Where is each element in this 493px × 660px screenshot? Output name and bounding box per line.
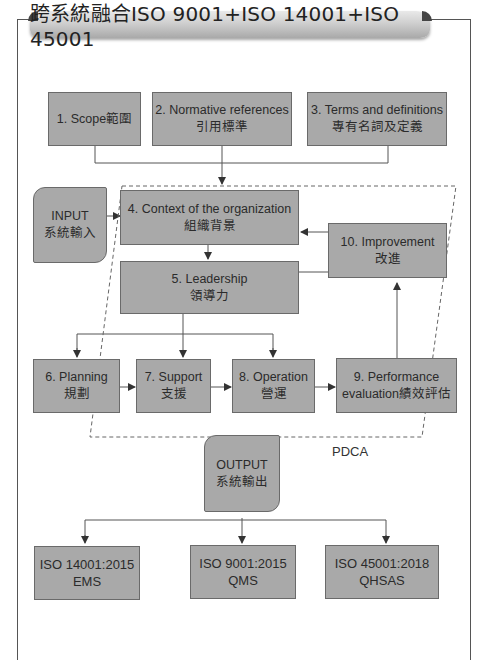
performance-label-zh: evaluation績效評估 [342,386,451,403]
box-iso-9001: ISO 9001:2015 QMS [190,545,296,599]
iso-9001-type: QMS [228,572,258,589]
box-output: OUTPUT 系統輸出 [204,435,280,512]
title-banner: 跨系統融合ISO 9001+ISO 14001+ISO 45001 [30,11,430,38]
box-improvement: 10. Improvement 改進 [328,223,447,278]
terms-definitions-label: 3. Terms and definitions [311,102,443,119]
operation-label: 8. Operation [239,369,308,386]
box-input: INPUT 系統輸入 [33,187,107,263]
iso-45001-code: ISO 45001:2018 [335,555,430,572]
terms-definitions-label-zh: 專有名詞及定義 [332,119,423,136]
diagram-title: 跨系統融合ISO 9001+ISO 14001+ISO 45001 [30,0,430,51]
leadership-label-zh: 領導力 [190,288,229,305]
input-label-zh: 系統輸入 [44,225,96,242]
output-label-zh: 系統輸出 [216,474,268,491]
improvement-label: 10. Improvement [341,234,435,251]
planning-label-zh: 規劃 [64,386,90,403]
context-label-zh: 組織背景 [184,218,236,235]
box-iso-14001: ISO 14001:2015 EMS [34,546,140,600]
operation-label-zh: 營運 [261,386,287,403]
improvement-label-zh: 改進 [375,251,401,268]
box-support: 7. Support 支援 [136,359,211,413]
box-context: 4. Context of the organization 組織背景 [120,190,299,245]
normative-references-label: 2. Normative references [155,102,288,119]
performance-label: 9. Performance [354,369,439,386]
box-normative-references: 2. Normative references 引用標準 [152,92,292,146]
box-planning: 6. Planning 規劃 [33,359,120,413]
iso-14001-type: EMS [73,573,101,590]
box-operation: 8. Operation 營運 [232,359,315,413]
leadership-label: 5. Leadership [172,271,248,288]
box-performance-evaluation: 9. Performance evaluation績效評估 [336,358,457,413]
box-terms-definitions: 3. Terms and definitions 專有名詞及定義 [307,92,447,146]
iso-14001-code: ISO 14001:2015 [40,556,135,573]
pdca-label: PDCA [332,444,368,459]
output-label: OUTPUT [216,457,267,474]
context-label: 4. Context of the organization [128,201,291,218]
iso-9001-code: ISO 9001:2015 [199,555,286,572]
support-label-zh: 支援 [161,386,187,403]
planning-label: 6. Planning [45,369,108,386]
iso-45001-type: QHSAS [359,572,405,589]
box-scope: 1. Scope範圍 [48,92,141,146]
box-iso-45001: ISO 45001:2018 QHSAS [325,545,439,599]
support-label: 7. Support [145,369,203,386]
scope-label: 1. Scope範圍 [57,111,132,128]
normative-references-label-zh: 引用標準 [196,119,248,136]
box-leadership: 5. Leadership 領導力 [120,261,299,314]
input-label: INPUT [51,208,89,225]
